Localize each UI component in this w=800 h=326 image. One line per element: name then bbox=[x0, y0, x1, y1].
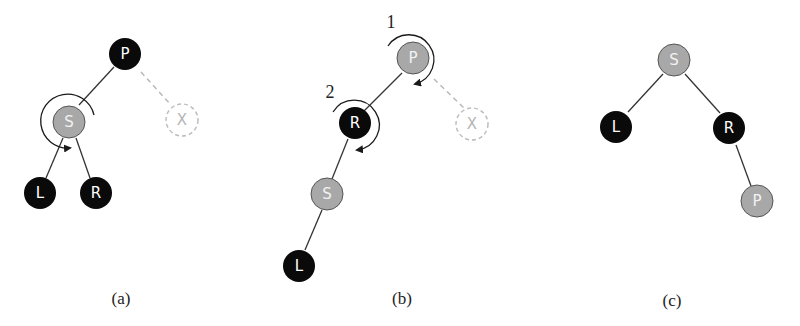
node-label: L bbox=[612, 118, 621, 136]
node-label: S bbox=[669, 51, 679, 69]
node-p: P bbox=[741, 185, 773, 217]
node-label: L bbox=[295, 257, 304, 275]
rotation-step-1: 1 bbox=[387, 12, 396, 32]
rotation-step-2: 2 bbox=[326, 82, 335, 102]
node-label: P bbox=[408, 49, 417, 67]
node-s: S bbox=[53, 106, 85, 138]
node-label: P bbox=[120, 45, 129, 63]
node-s: S bbox=[658, 44, 690, 76]
edge-r-s bbox=[332, 139, 348, 179]
node-label: R bbox=[91, 184, 101, 202]
node-s: S bbox=[311, 178, 343, 210]
edge-s-l bbox=[628, 74, 663, 112]
node-p: P bbox=[109, 38, 141, 70]
node-label: X bbox=[467, 115, 477, 133]
panel-c: S L R P (c) bbox=[600, 44, 773, 310]
edge-s-r bbox=[76, 138, 90, 178]
panel-b: 1 2 P R X S L (b) bbox=[283, 12, 488, 308]
node-p: P bbox=[397, 42, 429, 74]
node-label: P bbox=[752, 192, 761, 210]
node-l: L bbox=[24, 177, 56, 209]
node-r: R bbox=[339, 107, 371, 139]
edge-p-x-dashed bbox=[434, 79, 464, 108]
node-label: S bbox=[64, 113, 74, 131]
node-l: L bbox=[600, 111, 632, 143]
edge-s-r bbox=[685, 74, 720, 113]
edge-r-p bbox=[736, 145, 751, 186]
node-l: L bbox=[283, 250, 315, 282]
panel-a: P S X L R (a) bbox=[24, 38, 198, 308]
node-x-ghost: X bbox=[456, 108, 488, 140]
node-label: X bbox=[177, 111, 187, 129]
node-x-ghost: X bbox=[166, 104, 198, 136]
node-r: R bbox=[80, 177, 112, 209]
caption-a: (a) bbox=[112, 289, 131, 308]
tree-rotation-diagram: P S X L R (a) 1 2 bbox=[0, 0, 800, 326]
edge-p-x-dashed bbox=[141, 72, 171, 105]
node-label: S bbox=[322, 185, 332, 203]
node-label: R bbox=[350, 114, 360, 132]
edge-p-r bbox=[362, 73, 402, 113]
caption-b: (b) bbox=[392, 289, 412, 308]
caption-c: (c) bbox=[663, 291, 682, 310]
node-label: L bbox=[36, 184, 45, 202]
node-r: R bbox=[713, 112, 745, 144]
node-label: R bbox=[724, 119, 734, 137]
edge-s-l bbox=[305, 210, 322, 250]
